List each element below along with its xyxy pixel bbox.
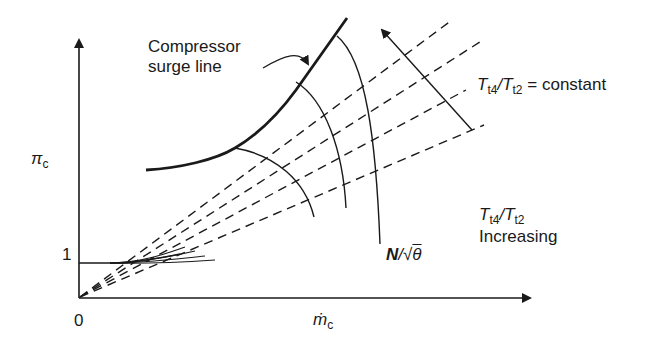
y-tick-one: 1 [62,246,71,263]
speed-lines [235,36,380,244]
low-flow-curves [110,247,215,263]
constant-temperature-ratio-lines [80,20,484,297]
origin-label: 0 [74,312,83,329]
surge-line-label: Compressor surge line [148,38,241,75]
surge-line-pointer [263,56,308,68]
x-axis-label: ṁc [313,311,333,331]
compressor-map-diagram [0,0,652,349]
temperature-ratio-increasing-arrow [382,30,472,130]
y-axis-label: πc [31,150,48,170]
temperature-ratio-increasing-label: Tt4/Tt2 Increasing [479,206,557,245]
constant-temperature-ratio-label: Tt4/Tt2 = constant [477,76,606,96]
corrected-speed-label: N/√θ [386,246,422,263]
